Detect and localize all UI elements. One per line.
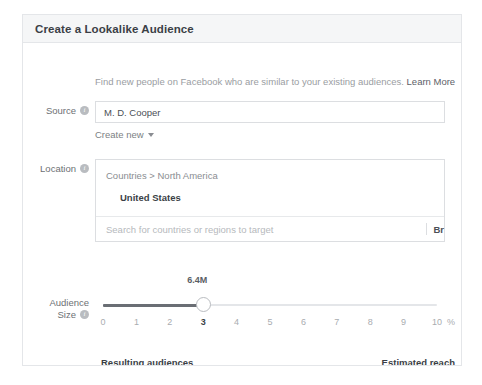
intro-text: Find new people on Facebook who are simi…	[95, 75, 455, 88]
page-title: Create a Lookalike Audience	[35, 23, 194, 35]
resulting-audiences-heading: Resulting audiences	[101, 356, 247, 366]
slider-value-label: 6.4M	[187, 275, 207, 285]
lookalike-audience-page: Create a Lookalike Audience Find new peo…	[0, 0, 482, 385]
slider-track-wrap[interactable]	[95, 297, 445, 313]
chevron-down-icon	[148, 133, 154, 137]
intro-row: Find new people on Facebook who are simi…	[95, 75, 455, 88]
info-icon[interactable]	[80, 164, 89, 173]
location-label: Location	[23, 159, 89, 175]
slider-tick-9: 9	[401, 317, 406, 327]
breadcrumb: Countries > North America	[96, 169, 444, 183]
slider-handle[interactable]	[196, 297, 211, 312]
audience-size-slider: 6.4M 012345678910%	[95, 293, 445, 331]
location-field-row: Location Countries > North America Unite…	[23, 159, 445, 242]
slider-unit-label: %	[447, 317, 455, 327]
location-selection-list: Countries > North America United States	[96, 160, 444, 217]
info-icon[interactable]	[80, 310, 89, 319]
create-lookalike-audience-card: Create a Lookalike Audience Find new peo…	[22, 14, 462, 366]
slider-fill	[103, 304, 203, 307]
location-label-text: Location	[40, 163, 76, 174]
estimated-reach-heading: Estimated reach	[382, 356, 455, 366]
divider	[426, 223, 427, 235]
slider-tick-10: 10	[432, 317, 442, 327]
source-controls: M. D. Cooper Create new	[95, 101, 445, 142]
location-box: Countries > North America United States …	[95, 159, 445, 242]
browse-button[interactable]: Br	[426, 223, 444, 235]
location-selected-item[interactable]: United States	[96, 191, 444, 205]
estimated-reach-column: Estimated reach 6,350,000 people	[382, 356, 455, 366]
browse-label: Br	[433, 224, 444, 235]
intro-description: Find new people on Facebook who are simi…	[95, 76, 404, 87]
slider-tick-1: 1	[134, 317, 139, 327]
location-search-row[interactable]: Search for countries or regions to targe…	[96, 217, 444, 241]
slider-tick-2: 2	[167, 317, 172, 327]
slider-tick-5: 5	[267, 317, 272, 327]
slider-tick-7: 7	[334, 317, 339, 327]
location-search-input[interactable]: Search for countries or regions to targe…	[106, 224, 273, 235]
source-input-value: M. D. Cooper	[104, 107, 161, 118]
audience-size-label: Audience Size	[23, 293, 89, 321]
audience-size-label-line1: Audience	[23, 297, 89, 309]
audience-size-label-line2: Size	[58, 309, 76, 320]
slider-tick-8: 8	[368, 317, 373, 327]
results-row: Resulting audiences Lookalike (US, 3%) -…	[101, 356, 455, 366]
slider-tick-0: 0	[100, 317, 105, 327]
slider-tick-6: 6	[301, 317, 306, 327]
slider-tick-3: 3	[201, 317, 206, 327]
resulting-audiences-column: Resulting audiences Lookalike (US, 3%) -…	[101, 356, 247, 366]
audience-size-row: Audience Size 6.4M 012345678910%	[23, 293, 445, 331]
info-icon[interactable]	[80, 106, 89, 115]
slider-tick-4: 4	[234, 317, 239, 327]
create-new-dropdown[interactable]: Create new	[95, 129, 154, 140]
source-input[interactable]: M. D. Cooper	[95, 101, 445, 123]
source-label-text: Source	[46, 105, 76, 116]
slider-tick-labels: 012345678910%	[95, 317, 445, 331]
learn-more-link[interactable]: Learn More	[407, 76, 456, 87]
source-field-row: Source M. D. Cooper Create new	[23, 101, 445, 142]
audience-size-label-line2-wrap: Size	[23, 309, 89, 321]
source-label: Source	[23, 101, 89, 117]
create-new-label: Create new	[95, 129, 144, 140]
card-header: Create a Lookalike Audience	[23, 15, 461, 43]
